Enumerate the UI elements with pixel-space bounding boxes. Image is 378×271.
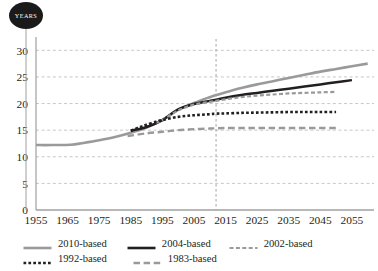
- legend-swatch-2010-based: [23, 239, 52, 249]
- svg-text:1985: 1985: [119, 214, 142, 226]
- years-badge-label: YEARS: [15, 12, 37, 20]
- legend-item-1983-based[interactable]: 1983-based: [133, 251, 217, 266]
- svg-text:25: 25: [17, 71, 29, 83]
- years-badge: YEARS: [9, 2, 43, 29]
- svg-text:15: 15: [17, 124, 29, 136]
- legend-label-1983-based: 1983-based: [168, 253, 217, 264]
- chart-page: YEARS 051015202530 195519651975198519952…: [0, 0, 378, 271]
- legend-swatch-2004-based: [127, 239, 156, 249]
- data-series-layer: [36, 64, 368, 145]
- svg-text:1965: 1965: [56, 214, 79, 226]
- legend-item-1992-based[interactable]: 1992-based: [23, 251, 107, 266]
- svg-text:5: 5: [22, 178, 28, 190]
- legend-label-2002-based: 2002-based: [264, 238, 313, 249]
- svg-text:2045: 2045: [309, 214, 332, 226]
- svg-text:1955: 1955: [25, 214, 48, 226]
- svg-text:2005: 2005: [183, 214, 206, 226]
- y-axis-tick-labels: 051015202530: [17, 45, 29, 217]
- gridlines: [36, 50, 374, 210]
- legend-swatch-2002-based: [229, 239, 258, 249]
- legend-label-2004-based: 2004-based: [162, 238, 211, 249]
- legend-label-2010-based: 2010-based: [58, 238, 107, 249]
- svg-text:10: 10: [17, 151, 29, 163]
- svg-text:2025: 2025: [246, 214, 269, 226]
- svg-text:2055: 2055: [340, 214, 363, 226]
- svg-text:1995: 1995: [151, 214, 174, 226]
- legend-label-1992-based: 1992-based: [58, 253, 107, 264]
- legend-swatch-1992-based: [23, 254, 52, 264]
- legend-item-2010-based[interactable]: 2010-based: [23, 236, 107, 251]
- legend-item-2002-based[interactable]: 2002-based: [229, 236, 313, 251]
- legend-item-2004-based[interactable]: 2004-based: [127, 236, 211, 251]
- svg-text:2015: 2015: [214, 214, 237, 226]
- svg-text:1975: 1975: [88, 214, 111, 226]
- legend-row-1: 2010-based 2004-based 2002-based: [0, 236, 378, 251]
- svg-text:30: 30: [17, 45, 29, 57]
- chart-legend: 2010-based 2004-based 2002-based 1992-ba…: [0, 236, 378, 271]
- legend-row-2: 1992-based 1983-based: [0, 251, 378, 266]
- svg-text:20: 20: [17, 98, 29, 110]
- legend-swatch-1983-based: [133, 254, 162, 264]
- axis-lines: [26, 24, 374, 210]
- svg-text:2035: 2035: [277, 214, 300, 226]
- line-chart: 051015202530 195519651975198519952005201…: [0, 0, 378, 236]
- x-axis-tick-labels: 1955196519751985199520052015202520352045…: [25, 214, 364, 226]
